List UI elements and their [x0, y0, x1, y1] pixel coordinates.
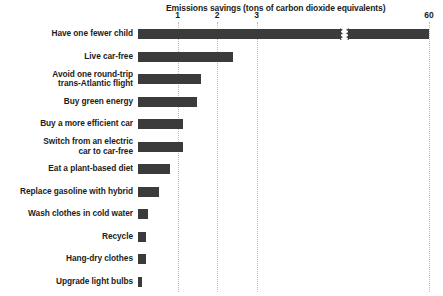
bar-row: [138, 67, 431, 92]
bar: [138, 74, 201, 84]
bar-row: [138, 180, 431, 205]
bar-row: [138, 157, 431, 182]
bar: [138, 29, 429, 39]
category-label: Recycle: [0, 225, 133, 250]
x-tick-label-1: 1: [175, 10, 180, 20]
category-axis: Have one fewer childLive car-freeAvoid o…: [0, 22, 133, 292]
x-tick-label-3: 3: [254, 10, 259, 20]
bar-row: [138, 90, 431, 115]
bar: [138, 97, 197, 107]
bar: [138, 52, 233, 62]
bar-row: [138, 112, 431, 137]
bar: [138, 277, 142, 287]
bar: [138, 187, 159, 197]
category-label: Eat a plant-based diet: [0, 157, 133, 182]
plot-area: 12360: [138, 22, 431, 292]
category-label: Replace gasoline with hybrid: [0, 180, 133, 205]
bar: [138, 232, 146, 242]
bar-row: [138, 225, 431, 250]
bar-row: [138, 247, 431, 272]
bar-row: [138, 22, 431, 47]
category-label: Buy a more efficient car: [0, 112, 133, 137]
bar-row: [138, 135, 431, 160]
axis-break-mark: [341, 27, 348, 41]
bar-chart: Emissions savings (tons of carbon dioxid…: [0, 0, 443, 296]
category-label: Hang-dry clothes: [0, 247, 133, 272]
bar: [138, 142, 183, 152]
category-label: Live car-free: [0, 45, 133, 70]
category-label: Upgrade light bulbs: [0, 270, 133, 295]
x-tick-label-2: 2: [215, 10, 220, 20]
bar-row: [138, 202, 431, 227]
category-label: Have one fewer child: [0, 22, 133, 47]
x-tick-label-60: 60: [424, 10, 433, 20]
bar: [138, 119, 183, 129]
bar: [138, 209, 148, 219]
category-label: Avoid one round-triptrans-Atlantic fligh…: [0, 67, 133, 92]
category-label: Buy green energy: [0, 90, 133, 115]
bar-row: [138, 270, 431, 295]
category-label: Switch from an electriccar to car-free: [0, 135, 133, 160]
chart-title: Emissions savings (tons of carbon dioxid…: [166, 3, 385, 13]
category-label: Wash clothes in cold water: [0, 202, 133, 227]
bar: [138, 164, 170, 174]
bar-row: [138, 45, 431, 70]
bar: [138, 254, 146, 264]
